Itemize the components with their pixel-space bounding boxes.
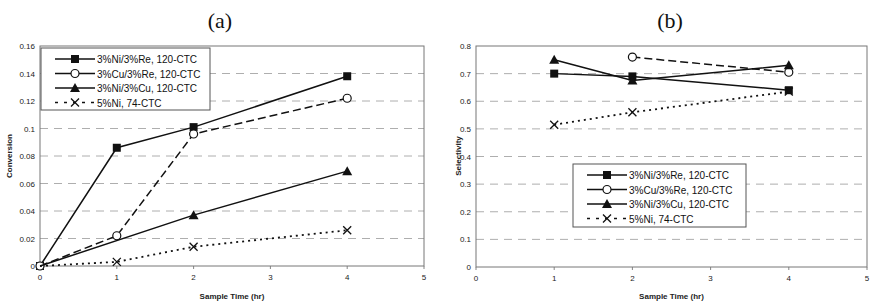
y-tick-label: 0.04 xyxy=(19,207,35,216)
circle-marker-icon xyxy=(785,68,793,76)
square-marker-icon xyxy=(113,144,121,152)
y-tick-label: 0.6 xyxy=(460,97,472,106)
circle-marker-icon xyxy=(71,70,79,78)
y-tick-label: 0.06 xyxy=(19,180,35,189)
legend-label: 3%Cu/3%Re, 120-CTC xyxy=(629,185,732,196)
x-tick-label: 1 xyxy=(552,274,557,283)
triangle-marker-icon xyxy=(342,166,352,175)
x-axis-title: Sample Time (hr) xyxy=(639,292,704,301)
y-tick-label: 0.14 xyxy=(19,70,35,79)
circle-marker-icon xyxy=(113,232,121,240)
series-line xyxy=(554,60,789,81)
square-marker-icon xyxy=(343,72,351,80)
x-tick-label: 0 xyxy=(38,273,43,282)
y-tick-label: 0.16 xyxy=(19,42,35,51)
circle-marker-icon xyxy=(343,94,351,102)
y-tick-label: 0.7 xyxy=(460,70,472,79)
x-axis-title: Sample Time (hr) xyxy=(200,292,265,301)
series-line xyxy=(554,92,789,125)
y-tick-label: 0.02 xyxy=(19,235,35,244)
legend-label: 3%Ni/3%Cu, 120-CTC xyxy=(97,83,197,94)
y-tick-label: 0.1 xyxy=(460,235,472,244)
y-tick-label: 0.12 xyxy=(19,97,35,106)
circle-marker-icon xyxy=(628,53,636,61)
square-marker-icon xyxy=(785,86,793,94)
y-tick-label: 0.08 xyxy=(19,152,35,161)
series-4 xyxy=(40,226,351,266)
legend: 3%Ni/3%Re, 120-CTC3%Cu/3%Re, 120-CTC3%Ni… xyxy=(573,164,746,227)
x-tick-label: 0 xyxy=(474,274,479,283)
y-axis-title: Selectivity xyxy=(454,136,463,176)
legend-label: 3%Ni/3%Re, 120-CTC xyxy=(97,54,197,65)
y-tick-label: 0.1 xyxy=(24,125,36,134)
panel-label: (a) xyxy=(208,8,232,33)
x-marker-icon xyxy=(628,108,636,116)
legend-label: 3%Ni/3%Cu, 120-CTC xyxy=(629,199,729,210)
x-tick-label: 5 xyxy=(422,273,427,282)
x-tick-label: 1 xyxy=(115,273,120,282)
series-3 xyxy=(40,166,352,266)
circle-marker-icon xyxy=(190,130,198,138)
chart-panel-a: (a)00.020.040.060.080.10.120.140.1601234… xyxy=(5,8,427,301)
x-tick-label: 4 xyxy=(787,274,792,283)
circle-marker-icon xyxy=(603,186,611,194)
square-marker-icon xyxy=(71,55,79,63)
y-tick-label: 0.5 xyxy=(460,125,472,134)
x-tick-label: 5 xyxy=(865,274,870,283)
triangle-marker-icon xyxy=(784,60,794,69)
square-marker-icon xyxy=(603,171,611,179)
legend-label: 5%Ni, 74-CTC xyxy=(97,98,161,109)
x-marker-icon xyxy=(550,121,558,129)
series-4 xyxy=(550,88,793,129)
y-tick-label: 0 xyxy=(467,263,472,272)
y-tick-label: 0.3 xyxy=(460,180,472,189)
series-line xyxy=(632,57,788,72)
y-tick-label: 0.8 xyxy=(460,42,472,51)
x-tick-label: 3 xyxy=(268,273,273,282)
x-tick-label: 2 xyxy=(191,273,196,282)
x-tick-label: 2 xyxy=(630,274,635,283)
y-axis-title: Conversion xyxy=(5,134,14,178)
y-tick-label: 0 xyxy=(31,262,36,271)
legend-label: 5%Ni, 74-CTC xyxy=(629,214,693,225)
legend: 3%Ni/3%Re, 120-CTC3%Cu/3%Re, 120-CTC3%Ni… xyxy=(41,48,210,110)
chart-panel-b: (b)00.10.20.30.40.50.60.70.8012345Sample… xyxy=(454,8,870,301)
square-marker-icon xyxy=(550,70,558,78)
x-tick-label: 4 xyxy=(345,273,350,282)
legend-label: 3%Ni/3%Re, 120-CTC xyxy=(629,170,729,181)
series-2 xyxy=(36,94,351,270)
legend-label: 3%Cu/3%Re, 120-CTC xyxy=(97,69,200,80)
triangle-marker-icon xyxy=(549,55,559,64)
panel-label: (b) xyxy=(657,8,683,33)
x-tick-label: 3 xyxy=(708,274,713,283)
y-tick-label: 0.2 xyxy=(460,208,472,217)
figure: (a)00.020.040.060.080.10.120.140.1601234… xyxy=(0,0,873,305)
